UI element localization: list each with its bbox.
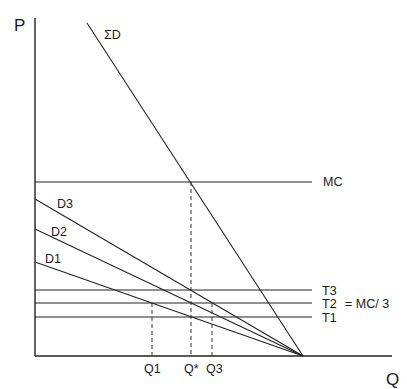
d1-label: D1 xyxy=(45,252,61,266)
d2-curve xyxy=(35,229,303,356)
t2-annotation: = MC/ 3 xyxy=(345,297,389,311)
t2-label: T2 xyxy=(322,297,337,311)
q1-label: Q1 xyxy=(144,362,161,376)
diagram-canvas: P Q ΣD MC D3 D2 D1 T3 T2 = MC/ 3 T1 Q1 Q… xyxy=(0,0,407,389)
d2-label: D2 xyxy=(51,225,67,239)
d3-label: D3 xyxy=(57,197,73,211)
qstar-label: Q* xyxy=(184,362,199,376)
d3-curve xyxy=(35,199,303,356)
mc-label: MC xyxy=(323,175,342,189)
d1-curve xyxy=(35,262,303,356)
sum-demand-curve xyxy=(87,23,303,356)
y-axis-label: P xyxy=(14,16,25,35)
sum-demand-label: ΣD xyxy=(104,28,121,42)
q3-label: Q3 xyxy=(206,362,223,376)
x-axis-label: Q xyxy=(386,370,399,389)
t1-label: T1 xyxy=(322,311,337,325)
t3-label: T3 xyxy=(322,284,337,298)
